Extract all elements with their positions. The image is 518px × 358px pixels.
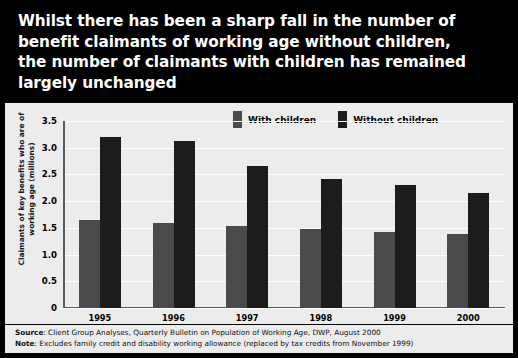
bar-without-children (468, 193, 489, 308)
chart-footer: Source: Client Group Analyses, Quarterly… (5, 324, 513, 353)
x-axis-tick-label: 1995 (63, 313, 137, 323)
bar-without-children (174, 141, 195, 308)
note-text: : Excludes family credit and disability … (35, 339, 414, 348)
bar-without-children (321, 179, 342, 308)
chart-figure: Whilst there has been a sharp fall in th… (0, 0, 518, 358)
bar-group: 1995 (63, 121, 137, 308)
bar-group: 1998 (284, 121, 358, 308)
bar-group: 1997 (210, 121, 284, 308)
y-axis-tick-label: 3.5 (42, 116, 57, 126)
x-axis-tick-label: 1996 (137, 313, 211, 323)
bar-with-children (226, 226, 247, 308)
chart-axes: 00.51.01.52.02.53.03.5 19951996199719981… (63, 121, 505, 308)
source-key: Source (15, 328, 43, 337)
bar-without-children (247, 166, 268, 308)
source-text: : Client Group Analyses, Quarterly Bulle… (43, 328, 380, 337)
bar-groups: 199519961997199819992000 (63, 121, 505, 308)
x-axis-tick-label: 1998 (284, 313, 358, 323)
bar-without-children (100, 137, 121, 308)
note-line: Note: Excludes family credit and disabil… (15, 339, 513, 350)
x-axis-tick-label: 1997 (210, 313, 284, 323)
bar-with-children (153, 223, 174, 308)
note-key: Note (15, 339, 35, 348)
bar-with-children (374, 232, 395, 308)
source-line: Source: Client Group Analyses, Quarterly… (15, 328, 513, 339)
chart-title-band: Whilst there has been a sharp fall in th… (4, 4, 514, 100)
bar-with-children (447, 234, 468, 308)
y-axis-tick-label: 3.0 (42, 143, 57, 153)
y-axis-tick-label: 2.0 (42, 196, 57, 206)
plot-area: Claimants of key benefits who are of wor… (5, 103, 513, 321)
x-axis-tick-label: 1999 (358, 313, 432, 323)
bar-without-children (395, 185, 416, 308)
y-axis-tick-label: 2.5 (42, 169, 57, 179)
bar-with-children (300, 229, 321, 308)
bar-group: 1999 (358, 121, 432, 308)
y-axis-tick-label: 1.5 (42, 223, 57, 233)
y-axis-tick-label: 0.5 (42, 276, 57, 286)
y-axis-tick-label: 0 (51, 303, 57, 313)
y-axis-label: Claimants of key benefits who are of wor… (17, 104, 37, 274)
chart-panel: Claimants of key benefits who are of wor… (4, 102, 514, 354)
y-axis-tick-label: 1.0 (42, 250, 57, 260)
bar-group: 1996 (137, 121, 211, 308)
bar-group: 2000 (431, 121, 505, 308)
page-title: Whilst there has been a sharp fall in th… (18, 11, 500, 93)
gridline: 0 (63, 308, 505, 309)
bar-with-children (79, 220, 100, 308)
x-axis-tick-label: 2000 (431, 313, 505, 323)
